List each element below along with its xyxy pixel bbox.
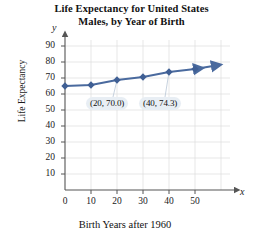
vertical-gridlines bbox=[91, 40, 221, 190]
data-point-0 bbox=[61, 82, 68, 89]
xtick-label-0: 0 bbox=[54, 196, 76, 206]
xtick-label-10: 10 bbox=[80, 196, 102, 206]
leader-line-2 bbox=[165, 72, 169, 97]
chart-figure: Life Expectancy for United States Males,… bbox=[0, 0, 263, 245]
x-axis-symbol: x bbox=[240, 186, 244, 197]
data-line-life-expectancy bbox=[65, 69, 195, 86]
y-axis-title: Life Expectancy bbox=[17, 31, 27, 151]
xtick-label-20: 20 bbox=[106, 196, 128, 206]
x-axis-title: Birth Years after 1960 bbox=[30, 219, 220, 230]
annotation-callout-1: (20, 70.0) bbox=[86, 97, 128, 110]
y-axis-symbol: y bbox=[52, 22, 56, 33]
ytick-label-20: 20 bbox=[33, 152, 55, 162]
ytick-label-90: 90 bbox=[33, 40, 55, 50]
data-point-20 bbox=[113, 76, 120, 83]
xtick-label-50: 50 bbox=[184, 196, 206, 206]
xtick-label-30: 30 bbox=[132, 196, 154, 206]
data-point-50 bbox=[191, 65, 198, 72]
ytick-label-40: 40 bbox=[33, 120, 55, 130]
plot-area: y x 90 80 70 60 50 40 30 20 10 0 10 20 3… bbox=[0, 0, 263, 245]
data-point-30 bbox=[139, 73, 146, 80]
ytick-label-80: 80 bbox=[33, 56, 55, 66]
ytick-label-50: 50 bbox=[33, 104, 55, 114]
annotation-callout-2: (40, 74.3) bbox=[139, 97, 181, 110]
horizontal-gridlines bbox=[65, 46, 230, 174]
ytick-label-10: 10 bbox=[33, 168, 55, 178]
x-axis-ticks bbox=[91, 190, 195, 194]
y-axis-ticks bbox=[61, 46, 65, 174]
ytick-label-60: 60 bbox=[33, 88, 55, 98]
ytick-label-70: 70 bbox=[33, 72, 55, 82]
data-point-10 bbox=[87, 81, 94, 88]
ytick-label-30: 30 bbox=[33, 136, 55, 146]
data-point-40 bbox=[165, 68, 172, 75]
xtick-label-40: 40 bbox=[158, 196, 180, 206]
